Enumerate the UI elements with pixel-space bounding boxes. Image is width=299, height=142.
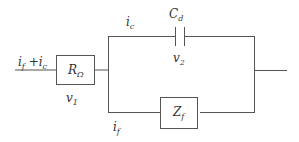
resistor-label: RΩ [67, 63, 84, 79]
resistor-voltage-label: v1 [66, 91, 78, 107]
impedance-current-label: if [113, 120, 122, 136]
impedance-label: Zf [172, 105, 186, 121]
capacitor-voltage-label: v2 [173, 51, 185, 67]
input-current-label: if +ic [18, 55, 48, 71]
capacitor-label: Cd [169, 7, 183, 23]
capacitor-current-label: ic [126, 15, 135, 31]
circuit-diagram: if +ic RΩ v1 ic Cd v2 if Zf [0, 0, 299, 142]
